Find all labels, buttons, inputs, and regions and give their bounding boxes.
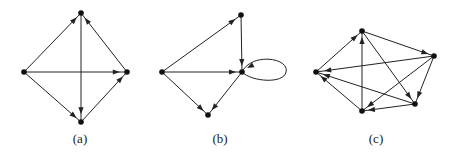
arrowhead-icon [417,91,422,98]
node-left [313,69,319,75]
node-right [124,69,130,75]
arrowhead-icon [368,107,375,112]
node-bottom [205,112,211,118]
self-loop-right [242,59,286,80]
arrowhead-icon [85,18,91,25]
caption-a: (a) [73,131,87,147]
graph-b [159,12,286,118]
arrowhead-icon [228,19,235,25]
arrowhead-icon [405,92,411,99]
arrowhead-icon [359,37,364,44]
node-top [78,10,84,16]
node-bottom [359,108,365,114]
edge-bottomright-to-left [316,72,415,104]
node-bottomright [412,101,418,107]
edge-left-to-top [162,15,241,72]
graph-a [21,10,130,125]
arrowhead-icon [367,101,374,107]
caption-b: (b) [212,131,227,147]
arrowhead-icon [78,107,83,114]
node-right [431,53,437,59]
node-left [21,69,27,75]
arrowhead-icon [212,103,218,110]
directed-graphs-figure [0,0,458,158]
arrowhead-icon [239,59,244,66]
arrowhead-icon [229,69,236,74]
node-top [238,12,244,18]
caption-c: (c) [369,131,383,147]
node-left [159,69,165,75]
graph-c [313,28,437,114]
node-top [359,28,365,34]
node-right [239,69,245,75]
edge-top-to-bottomright [362,31,415,104]
arrowhead-icon [421,49,428,54]
arrowhead-icon [113,69,120,74]
node-bottom [78,119,84,125]
arrowhead-icon [324,67,331,72]
